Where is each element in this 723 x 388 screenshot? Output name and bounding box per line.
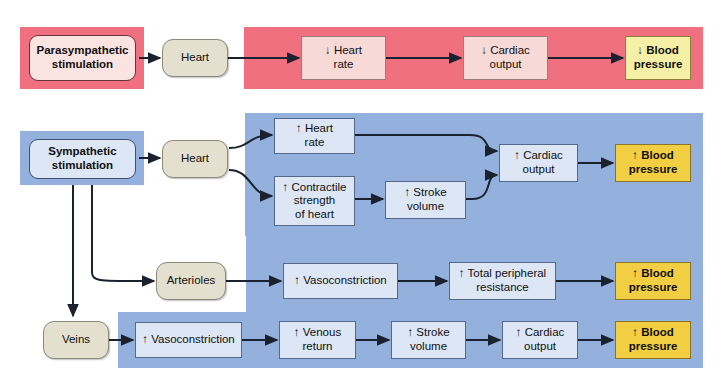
organ-heart-parasympathetic[interactable]: Heart (162, 39, 228, 77)
para-blood-pressure-label: ↓ Blood pressure (632, 44, 685, 71)
symp-venous-return-label: ↑ Venous return (292, 326, 343, 353)
up-arrow-icon: ↑ (514, 149, 520, 161)
up-arrow-icon: ↑ (404, 186, 410, 198)
up-arrow-icon: ↑ (283, 181, 289, 193)
symp-co-v-line1: Cardiac (525, 326, 565, 338)
sympathetic-stimulation-label: Sympathetic stimulation (46, 145, 118, 172)
up-arrow-icon: ↑ (516, 326, 522, 338)
symp-co-line2: output (523, 163, 555, 175)
down-arrow-icon: ↓ (325, 44, 331, 56)
organ-heart-sympathetic[interactable]: Heart (162, 140, 228, 178)
sympathetic-stimulation-box[interactable]: Sympathetic stimulation (29, 139, 136, 179)
symp-effect-venous-return[interactable]: ↑ Venous return (279, 321, 356, 359)
symp-source-line1: Sympathetic (48, 145, 116, 157)
up-arrow-icon: ↑ (459, 267, 465, 279)
para-source-line1: Parasympathetic (36, 44, 128, 56)
symp-sv-v-line2: volume (410, 340, 447, 352)
symp-bp-v-line1: Blood (641, 326, 674, 338)
symp-cardiac-output-label: ↑ Cardiac output (512, 149, 565, 176)
symp-effect-total-peripheral-resistance[interactable]: ↑ Total peripheral resistance (449, 262, 556, 300)
symp-bp-h-line2: pressure (629, 163, 678, 175)
symp-bp-art-label: ↑ Blood pressure (627, 267, 680, 294)
para-co-line1: Cardiac (490, 44, 530, 56)
organ-arterioles[interactable]: Arterioles (156, 262, 226, 300)
up-arrow-icon: ↑ (142, 333, 148, 345)
symp-contr-line2: strength (294, 194, 336, 206)
symp-vaso-art-line1: Vasoconstriction (303, 274, 387, 286)
symp-hr-line2: rate (305, 136, 325, 148)
para-heart-rate-label: ↓ Heart rate (323, 44, 364, 71)
symp-effect-cardiac-output-veins[interactable]: ↑ Cardiac output (502, 321, 578, 359)
symp-tpr-line2: resistance (476, 281, 528, 293)
symp-effect-vasoconstriction-veins[interactable]: ↑ Vasoconstriction (135, 322, 242, 358)
symp-tpr-line1: Total peripheral (468, 267, 547, 279)
up-arrow-icon: ↑ (632, 149, 638, 161)
para-outcome-blood-pressure[interactable]: ↓ Blood pressure (625, 36, 691, 80)
up-arrow-icon: ↑ (632, 326, 638, 338)
down-arrow-icon: ↓ (637, 44, 643, 56)
symp-effect-stroke-volume-veins[interactable]: ↑ Stroke volume (391, 321, 466, 359)
symp-bp-a-line2: pressure (629, 281, 678, 293)
symp-bp-heart-label: ↑ Blood pressure (627, 149, 680, 176)
organ-heart-symp-label: Heart (179, 152, 211, 166)
symp-vasoconstriction-art-label: ↑ Vasoconstriction (292, 274, 388, 288)
symp-bp-a-line1: Blood (641, 267, 674, 279)
symp-stroke-volume-label: ↑ Stroke volume (402, 186, 448, 213)
para-hr-line2: rate (334, 58, 354, 70)
para-effect-heart-rate[interactable]: ↓ Heart rate (301, 36, 386, 80)
para-hr-line1: Heart (334, 44, 362, 56)
up-arrow-icon: ↑ (294, 326, 300, 338)
symp-contractile-label: ↑ Contractile strength of heart (281, 181, 349, 222)
up-arrow-icon: ↑ (296, 122, 302, 134)
parasympathetic-stimulation-label: Parasympathetic stimulation (34, 44, 130, 71)
symp-vr-line2: return (302, 340, 332, 352)
symp-bp-v-line2: pressure (629, 340, 678, 352)
symp-sv-line1: Stroke (413, 186, 446, 198)
symp-sv-line2: volume (407, 200, 444, 212)
para-bp-line2: pressure (634, 58, 683, 70)
down-arrow-icon: ↓ (481, 44, 487, 56)
symp-outcome-blood-pressure-arterioles[interactable]: ↑ Blood pressure (615, 262, 691, 300)
symp-bp-h-line1: Blood (641, 149, 674, 161)
para-source-line2: stimulation (52, 58, 113, 70)
symp-effect-cardiac-output-heart[interactable]: ↑ Cardiac output (499, 144, 578, 182)
symp-outcome-blood-pressure-heart[interactable]: ↑ Blood pressure (615, 144, 691, 182)
symp-vaso-v-line1: Vasoconstriction (151, 333, 235, 345)
symp-vr-line1: Venous (303, 326, 341, 338)
symp-co-v-line2: output (524, 340, 556, 352)
up-arrow-icon: ↑ (294, 274, 300, 286)
up-arrow-icon: ↑ (632, 267, 638, 279)
symp-stroke-volume-v-label: ↑ Stroke volume (405, 326, 451, 353)
symp-heart-rate-label: ↑ Heart rate (294, 122, 335, 149)
organ-arterioles-label: Arterioles (165, 274, 218, 288)
parasympathetic-stimulation-box[interactable]: Parasympathetic stimulation (29, 35, 136, 81)
symp-effect-heart-rate[interactable]: ↑ Heart rate (274, 118, 355, 154)
symp-contr-line1: Contractile (291, 181, 346, 193)
para-co-line2: output (490, 58, 522, 70)
organ-veins-label: Veins (60, 333, 92, 347)
symp-hr-line1: Heart (305, 122, 333, 134)
symp-vasoconstriction-vein-label: ↑ Vasoconstriction (140, 333, 236, 347)
symp-sv-v-line1: Stroke (416, 326, 449, 338)
organ-heart-label: Heart (179, 51, 211, 65)
para-cardiac-output-label: ↓ Cardiac output (479, 44, 532, 71)
symp-contr-line3: of heart (295, 208, 334, 220)
para-bp-line1: Blood (646, 44, 679, 56)
symp-effect-contractile-strength[interactable]: ↑ Contractile strength of heart (274, 176, 355, 226)
symp-outcome-blood-pressure-veins[interactable]: ↑ Blood pressure (615, 321, 691, 359)
flowchart-diagram: Parasympathetic stimulation Heart ↓ Hear… (0, 0, 723, 388)
organ-veins[interactable]: Veins (43, 321, 109, 359)
symp-effect-stroke-volume-heart[interactable]: ↑ Stroke volume (385, 181, 466, 219)
up-arrow-icon: ↑ (407, 326, 413, 338)
symp-tpr-label: ↑ Total peripheral resistance (457, 267, 548, 294)
symp-co-line1: Cardiac (523, 149, 563, 161)
para-effect-cardiac-output[interactable]: ↓ Cardiac output (463, 36, 548, 80)
symp-effect-vasoconstriction-arterioles[interactable]: ↑ Vasoconstriction (283, 263, 398, 299)
symp-bp-vein-label: ↑ Blood pressure (627, 326, 680, 353)
symp-cardiac-output-v-label: ↑ Cardiac output (514, 326, 567, 353)
symp-source-line2: stimulation (52, 159, 113, 171)
